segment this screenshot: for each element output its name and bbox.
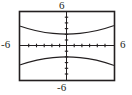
x-max-label: 6: [120, 39, 126, 50]
graph-figure: 6 -6 -6 6: [0, 0, 132, 95]
y-min-label: -6: [57, 82, 66, 93]
y-max-label: 6: [59, 0, 65, 11]
graph-canvas: [0, 0, 132, 95]
x-min-label: -6: [1, 39, 10, 50]
